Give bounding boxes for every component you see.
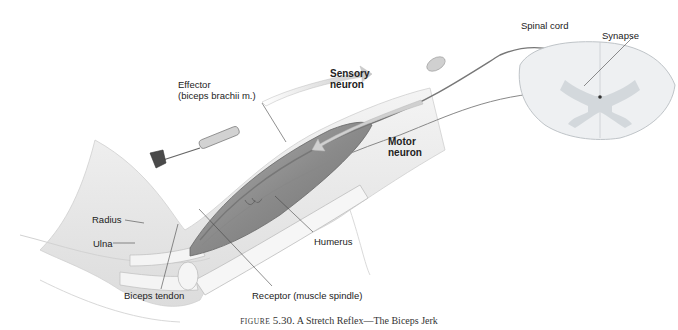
figure-number: 5.30. [273, 314, 295, 326]
radius-label: Radius [92, 214, 122, 225]
reflex-hammer-icon [150, 125, 240, 168]
sensory-neuron-label: Sensory neuron [330, 68, 369, 90]
motor-neuron-label: Motor neuron [388, 136, 422, 158]
shoulder-contour [350, 210, 370, 275]
motor-label-line2: neuron [388, 147, 422, 158]
effector-label-line2: (biceps brachii m.) [178, 90, 256, 101]
ulna-label: Ulna [93, 238, 113, 249]
stretch-reflex-diagram: Effector (biceps brachii m.) Sensory neu… [0, 0, 678, 330]
effector-label-line1: Effector [178, 79, 256, 90]
humerus-label: Humerus [314, 236, 353, 247]
diagram-artwork [0, 0, 678, 330]
effector-label: Effector (biceps brachii m.) [178, 79, 256, 101]
motor-label-line1: Motor [388, 136, 422, 147]
synapse-label: Synapse [602, 30, 639, 41]
figure-prefix: FIGURE [240, 317, 270, 326]
figure-caption: FIGURE 5.30. A Stretch Reflex—The Biceps… [0, 314, 678, 326]
figure-title: A Stretch Reflex—The Biceps Jerk [297, 315, 438, 326]
spinal-cord-label: Spinal cord [521, 20, 569, 31]
spinal-cord-section [519, 42, 675, 140]
receptor-label: Receptor (muscle spindle) [252, 290, 362, 301]
sensory-label-line2: neuron [330, 79, 369, 90]
biceps-tendon-label: Biceps tendon [124, 290, 184, 301]
dorsal-root-ganglion [424, 54, 447, 74]
central-canal [598, 95, 602, 99]
sensory-label-line1: Sensory [330, 68, 369, 79]
elbow-joint [178, 262, 198, 290]
